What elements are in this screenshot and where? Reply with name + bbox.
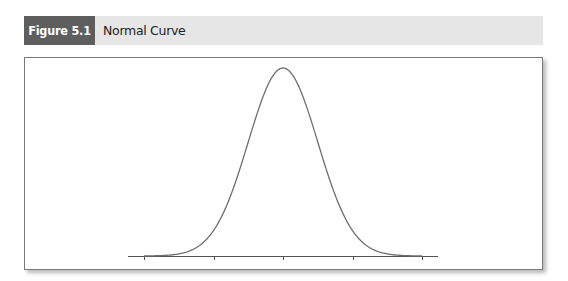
- normal-curve-chart: [0, 0, 568, 281]
- normal-curve-line: [144, 68, 422, 256]
